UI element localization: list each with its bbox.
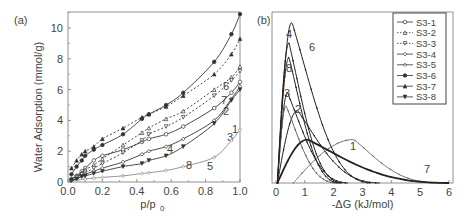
legend-label: S3-7 [416, 81, 436, 92]
x-tick-label: 2 [331, 186, 337, 198]
marker-triangle [238, 37, 242, 41]
marker-triangle-down [147, 159, 151, 163]
series-s3-4 [70, 85, 242, 183]
panel-b-energy-distribution-chart: (b)0123456-ΔG (kJ/mol)1234678S3-1S3-2S3-… [257, 12, 453, 210]
x-tick-label: 0.8 [198, 185, 213, 197]
marker-triangle-down [83, 174, 87, 178]
marker-dot [355, 178, 357, 180]
marker-dot [363, 147, 365, 149]
series-annotation: 4 [286, 28, 292, 40]
marker-dot [297, 144, 299, 146]
marker-diamond [121, 160, 125, 164]
marker-dot [302, 131, 304, 133]
marker-dot [319, 176, 321, 178]
marker-dot [350, 174, 352, 176]
legend: S3-1S3-2S3-3S3-4S3-5S3-6S3-7S3-8 [393, 13, 446, 104]
marker-triangle [83, 149, 87, 153]
marker-dot [287, 110, 289, 112]
marker-dot [294, 29, 296, 31]
marker-dot [369, 170, 371, 172]
marker-dot [323, 179, 325, 181]
marker-dot [431, 182, 433, 184]
x-axis-label: p/p [140, 198, 155, 210]
marker-dot [294, 129, 296, 131]
series-annotation: 6 [223, 80, 229, 92]
marker-triangle-down [101, 169, 105, 173]
marker-circle [75, 165, 79, 169]
marker-dot [338, 161, 340, 163]
marker-star [181, 165, 185, 169]
marker-dot [316, 107, 318, 109]
marker-dot [289, 123, 291, 125]
marker-triangle-down [164, 154, 168, 158]
marker-diamond [181, 137, 185, 141]
marker-dot [329, 179, 331, 181]
marker-dot [299, 49, 301, 51]
marker-dot [303, 118, 305, 120]
series-annotation: 5 [207, 160, 213, 172]
marker-dot [327, 139, 329, 141]
marker-diamond [140, 152, 144, 156]
marker-dot [287, 160, 289, 162]
marker-dot [306, 141, 308, 143]
marker-dot [421, 181, 423, 183]
marker-triangle-down [181, 116, 185, 120]
marker-dot [309, 162, 311, 164]
marker-star [101, 176, 105, 180]
y-axis-label: Water Adsorption (mmol/g) [32, 42, 44, 172]
y-tick-label: 8 [57, 53, 63, 65]
marker-dot [398, 174, 400, 176]
marker-triangle-down [121, 165, 125, 169]
marker-triangle [121, 126, 125, 130]
panel-label: (a) [14, 14, 27, 26]
marker-dot [318, 164, 320, 166]
marker-dot [380, 173, 382, 175]
marker-dot [344, 182, 346, 184]
marker-dot [292, 60, 294, 62]
marker-dot [337, 143, 339, 145]
marker-dot [344, 171, 346, 173]
x-tick-label: 5 [417, 186, 423, 198]
marker-dot [310, 89, 312, 91]
series-annotation: 3 [284, 87, 290, 99]
series-line [277, 106, 336, 183]
marker-dot [361, 181, 363, 183]
x-tick-label: 3 [359, 186, 365, 198]
marker-circle [121, 132, 125, 136]
marker-dot [336, 182, 338, 184]
marker-circle [403, 20, 407, 24]
legend-label: S3-3 [416, 38, 436, 49]
marker-dot [305, 69, 307, 71]
x-tick-label: 0.2 [95, 185, 110, 197]
marker-circle [101, 143, 105, 147]
x-tick-label: 0 [273, 186, 279, 198]
marker-triangle-down [92, 172, 96, 176]
marker-dot [330, 181, 332, 183]
series-line [277, 93, 348, 183]
marker-dot [407, 177, 409, 179]
y-tick-label: 6 [57, 84, 63, 96]
series-s3-6 [277, 23, 372, 184]
x-tick-label: 0.6 [164, 185, 179, 197]
marker-star [147, 171, 151, 175]
marker-dot [316, 172, 318, 174]
marker-triangle-down [164, 125, 168, 129]
series-s3-2 [70, 65, 242, 181]
marker-dot [308, 128, 310, 130]
marker-triangle [147, 126, 151, 130]
legend-label: S3-1 [416, 17, 436, 28]
legend-label: S3-8 [416, 91, 436, 102]
marker-dot [301, 147, 303, 149]
panel-a-isotherm-chart: (a)0.00.20.40.60.81.00246810p/p0Water Ad… [14, 12, 248, 213]
marker-triangle [238, 65, 242, 69]
marker-triangle [212, 72, 216, 76]
figure: (a)0.00.20.40.60.81.00246810p/p0Water Ad… [0, 0, 465, 222]
x-tick-label: 4 [388, 186, 394, 198]
marker-dot [332, 181, 334, 183]
x-axis-label-subscript: 0 [160, 204, 165, 213]
marker-circle [80, 159, 84, 163]
marker-dot [328, 150, 330, 152]
series-annotation: 7 [424, 163, 430, 175]
series-annotation: 8 [186, 159, 192, 171]
marker-dot [312, 168, 314, 170]
